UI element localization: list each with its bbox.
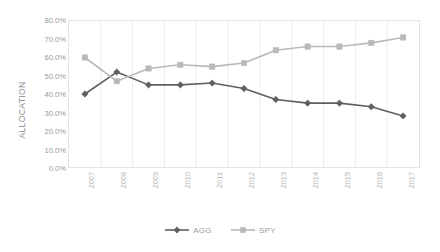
series-spy [82,35,406,84]
y-tick-label: 80.0% [30,16,66,25]
legend-item-agg[interactable]: AGG [164,225,212,235]
y-tick-label: 50.0% [30,71,66,80]
data-point-marker [336,100,342,106]
y-axis-tick-labels: 80.0%70.0%60.0%50.0%40.0%30.0%20.0%10.0%… [30,14,66,168]
data-point-marker [241,60,246,65]
x-tick-label: 2017 [407,172,416,188]
x-tick-label: 2016 [375,172,384,188]
data-point-marker [146,66,151,71]
legend-marker [240,227,246,233]
y-tick-label: 0.0% [30,164,66,173]
y-tick-label: 20.0% [30,127,66,136]
y-tick-label: 60.0% [30,53,66,62]
data-point-marker [400,35,405,40]
data-point-marker [273,96,279,102]
x-tick-label: 2007 [87,172,96,188]
data-point-marker [369,40,374,45]
data-point-marker [177,82,183,88]
data-point-marker [178,62,183,67]
allocation-line-chart: ALLOCATION 80.0%70.0%60.0%50.0%40.0%30.0… [0,0,440,252]
x-tick-label: 2009 [151,172,160,188]
x-tick-label: 2008 [119,172,128,188]
plot-area [68,20,420,168]
legend-marker [174,227,181,234]
x-tick-label: 2011 [215,172,224,188]
y-tick-label: 70.0% [30,34,66,43]
data-point-marker [209,64,214,69]
data-point-marker [114,79,119,84]
data-point-marker [145,82,151,88]
data-point-marker [82,55,87,60]
data-point-marker [368,104,374,110]
x-tick-label: 2012 [247,172,256,188]
data-point-marker [209,80,215,86]
plot-svg [69,21,419,167]
y-axis-title: ALLOCATION [14,55,30,165]
legend-label: SPY [259,226,276,235]
y-tick-label: 10.0% [30,145,66,154]
data-point-marker [273,48,278,53]
y-axis-title-label: ALLOCATION [17,81,27,138]
x-axis-tick-labels: 2007200820092010201120122013201420152016… [68,168,420,214]
data-point-marker [305,44,310,49]
y-tick-label: 30.0% [30,108,66,117]
x-tick-label: 2014 [311,172,320,188]
legend-label: AGG [193,226,212,235]
legend-diamond-icon [164,225,190,235]
legend-square-icon [230,225,256,235]
legend-item-spy[interactable]: SPY [230,225,276,235]
chart-legend: AGGSPY [0,220,440,240]
data-point-marker [304,100,310,106]
data-point-marker [400,113,406,119]
data-point-marker [241,85,247,91]
gridlines [101,21,387,167]
x-tick-label: 2010 [183,172,192,188]
x-tick-label: 2013 [279,172,288,188]
data-point-marker [337,44,342,49]
x-tick-label: 2015 [343,172,352,188]
y-tick-label: 40.0% [30,90,66,99]
